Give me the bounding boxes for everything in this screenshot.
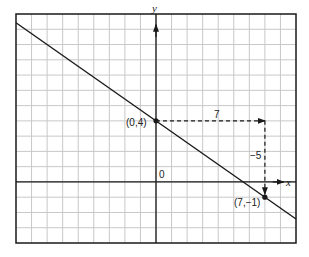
origin-label: 0 — [159, 169, 165, 180]
y-axis-label: y — [151, 2, 157, 14]
data-point — [262, 195, 267, 200]
axes — [16, 14, 296, 243]
chart: y x 0 (0,4) (7,−1) 7 −5 — [0, 0, 309, 257]
point-label-0-4: (0,4) — [126, 117, 147, 128]
point-label-7-neg1: (7,−1) — [234, 197, 260, 208]
rise-label: −5 — [250, 150, 262, 161]
run-label: 7 — [214, 109, 220, 120]
x-axis-label: x — [285, 176, 291, 188]
data-point — [153, 118, 158, 123]
